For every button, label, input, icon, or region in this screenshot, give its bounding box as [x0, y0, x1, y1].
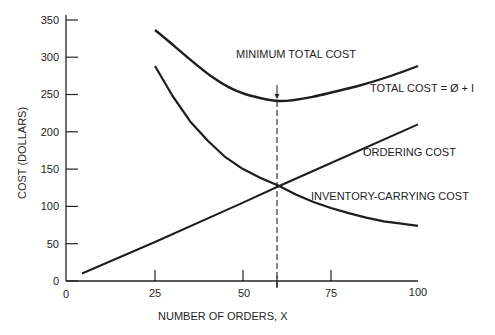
- label-total-cost: TOTAL COST = Ø + I: [370, 82, 474, 94]
- arrow-head-icon: [275, 94, 280, 99]
- x-tick-labels: 0 25 50 75 100: [63, 286, 427, 300]
- y-tick-label: 150: [41, 163, 59, 175]
- y-tick-label: 350: [41, 14, 59, 26]
- x-tick-label: 50: [238, 287, 250, 299]
- x-axis-title: NUMBER OF ORDERS, X: [158, 310, 288, 322]
- label-minimum-total-cost: MINIMUM TOTAL COST: [236, 48, 356, 60]
- x-tick-label: 75: [325, 287, 337, 299]
- x-tick-label: 100: [409, 286, 427, 298]
- cost-chart: 0 50 100 150 200 250 300 350 0 25 50 75 …: [0, 0, 495, 335]
- y-tick-label: 300: [41, 51, 59, 63]
- y-tick-label: 50: [47, 238, 59, 250]
- y-tick-labels: 0 50 100 150 200 250 300 350: [41, 14, 59, 287]
- x-ticks: [155, 270, 331, 288]
- y-ticks: [66, 20, 78, 281]
- y-tick-label: 0: [53, 275, 59, 287]
- y-tick-label: 250: [41, 88, 59, 100]
- label-inventory-carrying-cost: INVENTORY-CARRYING COST: [311, 190, 469, 202]
- y-tick-label: 200: [41, 126, 59, 138]
- y-tick-label: 100: [41, 200, 59, 212]
- y-axis-title: COST (DOLLARS): [16, 107, 28, 199]
- x-tick-label: 0: [63, 288, 69, 300]
- label-ordering-cost: ORDERING COST: [363, 146, 456, 158]
- x-tick-label: 25: [149, 287, 161, 299]
